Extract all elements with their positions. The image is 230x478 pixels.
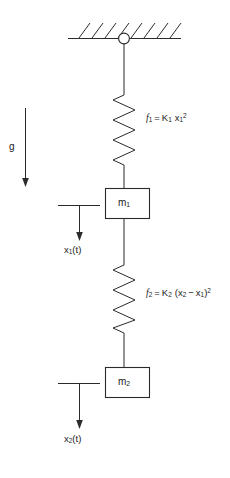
displacement-1-indicator (58, 206, 100, 242)
spring-2-force-label: f2=K2(x2−x1)2 (146, 288, 211, 299)
gravity-label: g (9, 142, 15, 152)
spring-2-x-sub: 2 (183, 291, 187, 298)
ceiling-support (68, 23, 181, 44)
mass-1-label: m1 (118, 198, 130, 208)
displacement-1-label: x1(t) (64, 245, 81, 255)
hatch-mark (92, 23, 103, 38)
displacement-2-label: x2(t) (64, 434, 81, 444)
hatch-mark (79, 23, 90, 38)
gravity-arrow (22, 108, 29, 187)
x1-arg: (t) (72, 244, 81, 255)
spring-1-coil (113, 95, 135, 165)
pivot-joint-circle (119, 33, 130, 44)
spring-2-exponent: 2 (207, 287, 211, 294)
mass-1-sub: 1 (126, 201, 130, 208)
x2-arrow-head (76, 420, 83, 429)
spring-1-exponent: 2 (183, 112, 187, 119)
spring-2-k-sub: 2 (168, 291, 172, 298)
hatch-mark (170, 23, 181, 38)
gravity-arrow-head (22, 178, 29, 187)
x2-arg: (t) (72, 433, 81, 444)
displacement-2-indicator (58, 384, 100, 430)
hatch-mark (105, 23, 116, 38)
spring-2-equals: = (154, 287, 160, 298)
spring-1-f-sub: 1 (149, 116, 153, 123)
mass-2-label: m2 (118, 377, 130, 387)
hatch-mark (131, 23, 142, 38)
spring-1-force-label: f1=K1x12 (146, 113, 187, 124)
spring-1-k-sub: 1 (168, 116, 172, 123)
spring-1-equals: = (154, 112, 160, 123)
hatch-mark (157, 23, 168, 38)
mass-2-sub: 2 (126, 380, 130, 387)
diagram-canvas (0, 0, 230, 478)
mechanical-system-diagram: g f1=K1x12 m1 x1(t) f2=K2(x2−x1)2 m2 x2(… (0, 0, 230, 478)
hatch-mark (144, 23, 155, 38)
ceiling-hatching (79, 23, 181, 38)
spring-2-coil (113, 265, 135, 333)
spring-2-minus: − (188, 287, 194, 298)
spring-2-f-sub: 2 (149, 291, 153, 298)
x1-arrow-head (76, 232, 83, 241)
